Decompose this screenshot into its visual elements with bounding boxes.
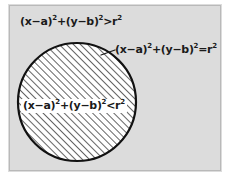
label-boundary-lhs: (x−a) <box>115 43 147 56</box>
label-exterior-inequality: (x−a)2+(y−b)2>r2 <box>20 16 122 27</box>
label-exterior-mid: +(y−b) <box>57 15 99 28</box>
label-boundary-mid: +(y−b) <box>152 43 194 56</box>
label-boundary-relation-exponent: 2 <box>212 42 217 50</box>
label-exterior-relation: >r <box>103 15 117 28</box>
label-interior-inequality: (x−a)2+(y−b)2<r2 <box>21 99 127 113</box>
figure-canvas: (x−a)2+(y−b)2>r2 (x−a)2+(y−b)2=r2 (x−a)2… <box>0 0 235 188</box>
label-exterior-relation-exponent: 2 <box>117 14 122 22</box>
label-interior-lhs: (x−a) <box>23 99 55 112</box>
label-interior-relation: <r <box>106 99 120 112</box>
circle-diagram-svg <box>0 0 235 188</box>
label-exterior-lhs: (x−a) <box>20 15 52 28</box>
label-interior-mid: +(y−b) <box>60 99 102 112</box>
label-boundary-equation: (x−a)2+(y−b)2=r2 <box>115 44 217 55</box>
label-interior-relation-exponent: 2 <box>120 98 125 106</box>
label-boundary-relation: =r <box>198 43 212 56</box>
